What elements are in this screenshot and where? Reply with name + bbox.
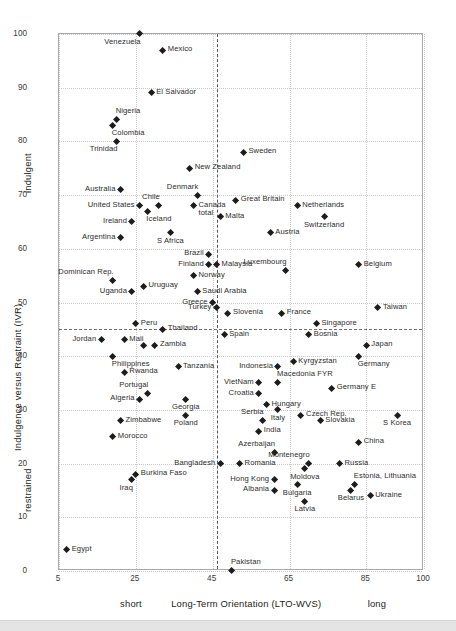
data-point-marker [205, 261, 212, 268]
data-point-marker [128, 218, 135, 225]
data-point-label: Germany E [337, 383, 376, 392]
y-axis-title: Indulgence versus Restraint (IVR) [12, 304, 23, 451]
gridline-vertical [366, 34, 367, 569]
y-axis-tick-label: 20 [0, 458, 27, 467]
y-axis-tick-label: 90 [0, 82, 27, 91]
data-point-label: Bulgaria [283, 489, 312, 498]
data-point-label: Germany [358, 360, 390, 369]
gridline-vertical [59, 34, 60, 569]
data-point-label: Rwanda [129, 367, 157, 376]
data-point-label: United States [88, 201, 135, 210]
data-point-label: Slovenia [233, 308, 263, 317]
data-point-label: Ireland [103, 217, 127, 226]
data-point-marker [278, 310, 285, 317]
data-point-marker [236, 460, 243, 467]
data-point-marker [117, 186, 124, 193]
y-axis-restrained-label: restrained [22, 468, 33, 512]
data-point-label: Thailand [168, 324, 198, 333]
data-point-label: Bosnia [314, 330, 338, 339]
y-axis-tick-label: 60 [0, 243, 27, 252]
data-point-label: Singapore [321, 319, 357, 328]
data-point-label: Macedonia FYR [277, 370, 333, 379]
gridline-horizontal [59, 517, 422, 518]
gridline-horizontal [59, 571, 422, 572]
x-axis-tick-label: 85 [361, 574, 370, 583]
data-point-marker [109, 433, 116, 440]
x-axis-long-label: long [368, 598, 387, 609]
data-point-marker [190, 202, 197, 209]
data-point-label: S Africa [157, 237, 184, 246]
data-point-label: Albania [243, 485, 269, 494]
data-point-label: Luxembourg [243, 258, 286, 267]
data-point-marker [144, 390, 151, 397]
gridline-horizontal [59, 34, 422, 35]
data-point-marker [224, 310, 231, 317]
data-point-marker [255, 428, 262, 435]
data-point-label: Uruguay [149, 281, 178, 290]
data-point-marker [63, 546, 70, 553]
data-point-label: Russia [344, 459, 368, 468]
data-point-label: Mexico [168, 45, 193, 54]
data-point-marker [121, 369, 128, 376]
data-point-marker [205, 250, 212, 257]
data-point-label: Uganda [100, 287, 127, 296]
data-point-marker [255, 379, 262, 386]
data-point-marker [136, 202, 143, 209]
data-point-label: Belgium [364, 260, 392, 269]
data-point-marker [305, 331, 312, 338]
data-point-marker [363, 342, 370, 349]
data-point-label: S Korea [383, 419, 411, 428]
data-point-marker [355, 438, 362, 445]
data-point-marker [367, 492, 374, 499]
data-point-label: Croatia [229, 389, 254, 398]
gridline-horizontal [59, 303, 422, 304]
data-point-marker [190, 272, 197, 279]
data-point-marker [294, 202, 301, 209]
data-point-marker [282, 267, 289, 274]
data-point-label: Jordan [72, 335, 96, 344]
data-point-marker [109, 277, 116, 284]
data-point-label: Ukraine [375, 491, 402, 500]
data-point-marker [290, 358, 297, 365]
data-point-label: Romania [245, 459, 276, 468]
x-axis-tick-label: 65 [284, 574, 293, 583]
data-point-label: Morocco [118, 432, 148, 441]
data-point-marker [174, 363, 181, 370]
data-point-marker [259, 417, 266, 424]
data-point-marker [148, 89, 155, 96]
data-point-marker [355, 261, 362, 268]
data-point-label: Iraq [120, 484, 134, 493]
data-point-label: Japan [371, 340, 392, 349]
data-point-marker [270, 487, 277, 494]
data-point-label: Poland [174, 419, 198, 428]
data-point-label: France [287, 308, 311, 317]
gridline-vertical [424, 34, 425, 569]
data-point-label: Turkey [188, 303, 212, 312]
data-point-label: Spain [229, 330, 249, 339]
data-point-label: Dominican Rep. [58, 268, 113, 277]
data-point-label: Australia [85, 185, 115, 194]
data-point-label: Sweden [248, 147, 276, 156]
data-point-marker [232, 197, 239, 204]
reference-line-vertical [217, 34, 218, 569]
data-point-marker [255, 390, 262, 397]
data-point-marker [297, 412, 304, 419]
data-point-label: Taiwan [383, 303, 407, 312]
data-point-label: India [264, 426, 281, 435]
data-point-label: Malta [225, 212, 244, 221]
data-point-marker [121, 336, 128, 343]
plot-area: VenezuelaMexicoEl SalvadorNigeriaColombi… [58, 33, 423, 570]
data-point-marker [221, 331, 228, 338]
data-point-label: Montenegro [268, 451, 310, 460]
data-point-marker [128, 288, 135, 295]
data-point-label: Portugal [119, 381, 148, 390]
data-point-label: Kyrgyzstan [298, 357, 337, 366]
data-point-label: VietNam [224, 378, 254, 387]
data-point-label: Finland [178, 260, 204, 269]
data-point-label: Indonesia [239, 362, 273, 371]
data-point-marker [159, 46, 166, 53]
data-point-label: Burkina Faso [141, 469, 187, 478]
data-point-marker [194, 191, 201, 198]
data-point-label: Great Britain [241, 195, 285, 204]
